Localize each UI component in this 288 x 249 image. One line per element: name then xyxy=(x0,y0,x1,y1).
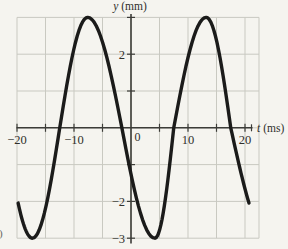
figure-label-fragment: ) xyxy=(0,227,3,240)
y-tick-label: 2 xyxy=(119,48,125,62)
x-tick-label: 10 xyxy=(182,133,195,147)
x-axis-title: t(ms) xyxy=(257,122,284,135)
y-tick-label: −3 xyxy=(112,232,125,246)
x-tick-label: −20 xyxy=(7,133,27,147)
figure-canvas: −20−1010202−2−3 y(mm) t(ms) 0 ) xyxy=(0,0,288,249)
x-tick-label: −10 xyxy=(64,133,84,147)
y-tick-label: −2 xyxy=(112,195,125,209)
origin-tick-label: 0 xyxy=(135,130,141,144)
y-axis-title: y(mm) xyxy=(112,0,147,13)
waveform-chart: −20−1010202−2−3 y(mm) t(ms) 0 ) xyxy=(0,0,288,249)
x-tick-label: 20 xyxy=(239,133,252,147)
